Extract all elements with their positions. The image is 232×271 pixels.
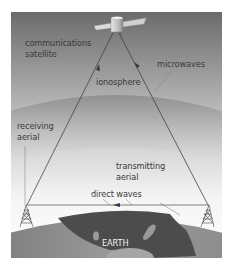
label-transmitting-aerial-line2: aerial: [116, 172, 138, 182]
label-communications-satellite-line1: communications: [25, 38, 91, 48]
label-earth: EARTH: [102, 238, 129, 248]
label-transmitting-aerial-line1: transmitting: [116, 161, 165, 171]
label-receiving-aerial-line1: receiving: [17, 121, 54, 131]
earth-island: [93, 232, 99, 241]
earth-landmass: [106, 248, 154, 268]
label-direct-waves: direct waves: [91, 189, 142, 199]
label-ionosphere: ionosphere: [96, 77, 140, 87]
label-receiving-aerial-line2: aerial: [17, 132, 39, 142]
label-microwaves: microwaves: [157, 59, 205, 69]
label-communications-satellite-line2: satellite: [25, 49, 57, 59]
satellite-communication-diagram: communications satellite ionosphere micr…: [0, 0, 232, 271]
